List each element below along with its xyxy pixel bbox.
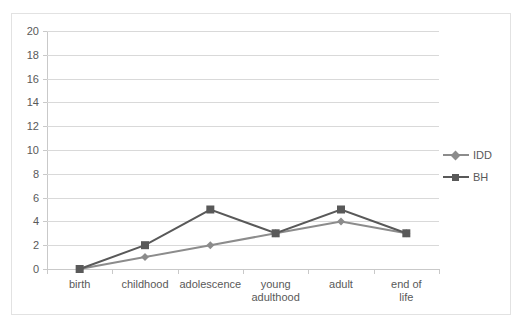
legend-swatch-idd (443, 149, 469, 161)
legend-swatch-bh (443, 171, 469, 183)
x-axis-category-label: end of life (390, 278, 423, 303)
x-axis-tick (308, 269, 309, 274)
legend-label-bh: BH (473, 172, 488, 183)
x-axis-category-label: birth (69, 278, 90, 291)
x-axis-tick (112, 269, 113, 274)
x-axis-tick (243, 269, 244, 274)
diamond-marker-icon (451, 151, 461, 161)
legend-item-bh[interactable]: BH (443, 166, 492, 188)
x-axis-category-label: childhood (121, 278, 168, 291)
data-point-marker (206, 206, 214, 214)
x-axis-category-label: adult (329, 278, 353, 291)
x-axis-tick (47, 269, 48, 274)
data-point-marker (76, 265, 84, 273)
data-point-marker (206, 241, 214, 249)
plot-area: 02468101214161820 birthchildhoodadolesce… (47, 31, 439, 269)
x-axis-category-label: adolescence (179, 278, 241, 291)
y-axis-tick-label: 16 (27, 73, 39, 84)
y-axis-tick-label: 12 (27, 121, 39, 132)
data-point-marker (337, 217, 345, 225)
data-point-marker (402, 229, 410, 237)
legend-label-idd: IDD (473, 150, 492, 161)
y-axis-tick-label: 8 (33, 168, 39, 179)
legend-item-idd[interactable]: IDD (443, 144, 492, 166)
y-axis-tick-label: 18 (27, 49, 39, 60)
chart-legend: IDD BH (443, 144, 492, 188)
y-axis-tick-label: 2 (33, 240, 39, 251)
series-line-idd (80, 221, 407, 269)
y-axis-tick-label: 20 (27, 26, 39, 37)
data-point-marker (272, 229, 280, 237)
y-axis-tick-label: 10 (27, 145, 39, 156)
data-point-marker (141, 253, 149, 261)
y-axis-tick-label: 4 (33, 216, 39, 227)
data-point-marker (141, 241, 149, 249)
x-axis-tick (178, 269, 179, 274)
x-axis-tick (374, 269, 375, 274)
y-axis-tick-label: 0 (33, 264, 39, 275)
y-axis-tick-label: 14 (27, 97, 39, 108)
data-point-marker (337, 206, 345, 214)
series-layer (47, 31, 439, 269)
square-marker-icon (452, 174, 459, 181)
x-axis-tick (439, 269, 440, 274)
x-axis-category-label: young adulthood (251, 278, 299, 303)
y-axis-tick-label: 6 (33, 192, 39, 203)
chart-container: 02468101214161820 birthchildhoodadolesce… (11, 13, 511, 315)
